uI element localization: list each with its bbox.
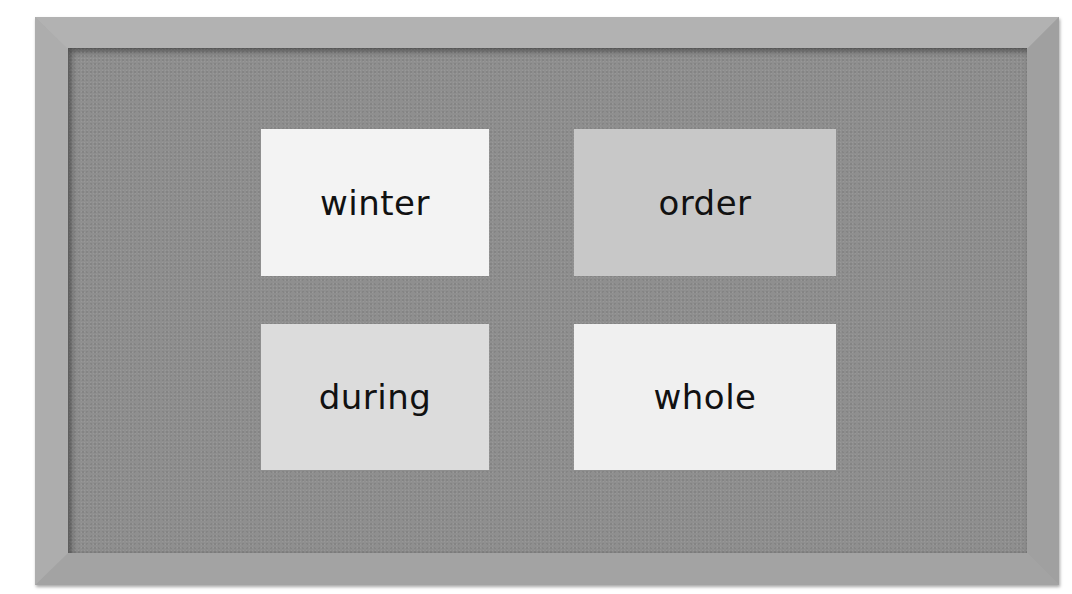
frame-bottom: [35, 553, 1059, 585]
card-word: during: [319, 377, 432, 417]
cork-board: [68, 48, 1027, 553]
frame-right: [1027, 17, 1059, 585]
word-card-during[interactable]: during: [261, 324, 489, 470]
card-word: winter: [320, 183, 430, 223]
word-card-whole[interactable]: whole: [574, 324, 836, 470]
word-card-order[interactable]: order: [574, 129, 836, 276]
word-card-winter[interactable]: winter: [261, 129, 489, 276]
card-word: order: [658, 183, 751, 223]
frame-left: [35, 17, 68, 585]
card-word: whole: [653, 377, 756, 417]
frame-top: [35, 17, 1059, 49]
